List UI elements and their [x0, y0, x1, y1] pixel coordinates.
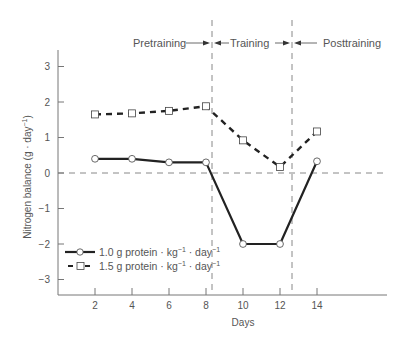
data-point-square — [277, 163, 284, 170]
y-axis-label: Nitrogen balance (g · day−1) — [21, 115, 33, 239]
data-point-square — [240, 137, 247, 144]
phase-label-training: Training — [230, 37, 269, 49]
y-tick-label: −2 — [39, 239, 51, 250]
data-point-square — [203, 103, 210, 110]
data-point-circle — [166, 159, 173, 166]
series-line-1-0g — [95, 159, 317, 244]
phase-label-pretraining: Pretraining — [133, 37, 186, 49]
data-point-circle — [92, 155, 99, 162]
arrowhead-right-icon — [283, 41, 290, 46]
x-tick-label: 6 — [166, 300, 172, 311]
series-layer — [92, 103, 321, 248]
data-point-circle — [129, 155, 136, 162]
data-point-circle — [240, 241, 247, 248]
legend-label-1-5g: 1.5 g protein · kg−1 · day−1 — [99, 260, 220, 272]
x-tick-label: 8 — [203, 300, 209, 311]
phase-labels: Pretraining Training Posttraining — [133, 37, 381, 49]
legend-item-1-0g: 1.0 g protein · kg−1 · day−1 — [65, 246, 220, 258]
y-tick-label: 2 — [44, 97, 50, 108]
y-tick-label: 0 — [44, 168, 50, 179]
x-ticks: 2468101214 — [92, 288, 323, 311]
data-point-circle — [277, 241, 284, 248]
y-ticks: 3210−1−2−3 — [39, 61, 64, 285]
x-tick-label: 12 — [274, 300, 286, 311]
y-tick-label: −3 — [39, 274, 51, 285]
x-tick-label: 10 — [237, 300, 249, 311]
axes: 3210−1−2−3 2468101214 — [39, 50, 387, 311]
data-point-square — [314, 128, 321, 135]
circle-marker-icon — [77, 249, 83, 255]
x-tick-label: 14 — [311, 300, 323, 311]
x-tick-label: 4 — [129, 300, 135, 311]
legend: 1.0 g protein · kg−1 · day−1 1.5 g prote… — [65, 246, 220, 272]
phase-label-posttraining: Posttraining — [323, 37, 381, 49]
nitrogen-balance-chart: 3210−1−2−3 2468101214 Days Nitrogen bala… — [0, 0, 407, 338]
square-marker-icon — [77, 263, 84, 270]
data-point-circle — [314, 158, 321, 165]
legend-item-1-5g: 1.5 g protein · kg−1 · day−1 — [68, 260, 220, 272]
x-tick-label: 2 — [92, 300, 98, 311]
data-point-square — [92, 111, 99, 118]
data-point-square — [129, 110, 136, 117]
data-point-circle — [203, 159, 210, 166]
data-point-square — [166, 107, 173, 114]
x-axis-label: Days — [232, 317, 255, 328]
arrowhead-right-icon — [203, 41, 210, 46]
y-tick-label: 1 — [44, 132, 50, 143]
legend-label-1-0g: 1.0 g protein · kg−1 · day−1 — [99, 246, 220, 258]
y-tick-label: −1 — [39, 203, 51, 214]
y-tick-label: 3 — [44, 61, 50, 72]
